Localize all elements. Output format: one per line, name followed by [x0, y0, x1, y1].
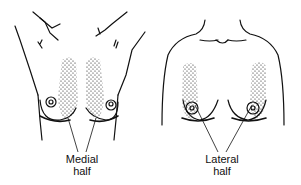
left-medial-stipple [58, 57, 104, 120]
left-leader-lines [68, 118, 96, 152]
medial-label-line1: Medial [52, 153, 112, 165]
lateral-half-label: Lateral half [192, 153, 252, 177]
medial-label-line2: half [52, 165, 112, 177]
right-lateral-stipple [182, 62, 266, 120]
left-torso-figure [15, 12, 145, 140]
medial-half-label: Medial half [52, 153, 112, 177]
breast-halves-diagram [0, 0, 301, 185]
lateral-label-line1: Lateral [192, 153, 252, 165]
lateral-label-line2: half [192, 165, 252, 177]
right-leader-lines [195, 105, 252, 152]
